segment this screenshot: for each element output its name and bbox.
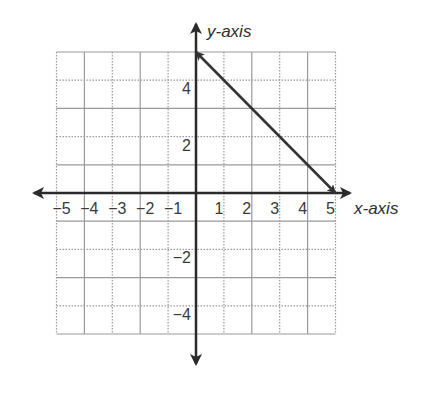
y-tick-label: −4 [173, 306, 191, 323]
x-axis-label: x-axis [353, 199, 399, 218]
x-tick-label: −3 [108, 200, 126, 217]
x-tick-label: 1 [214, 200, 223, 217]
x-tick-label: 5 [326, 200, 335, 217]
x-tick-label: −1 [164, 200, 182, 217]
x-tick-label: −4 [80, 200, 98, 217]
axes [34, 24, 350, 364]
x-tick-label: 2 [242, 200, 251, 217]
y-tick-label: 4 [182, 80, 191, 97]
coordinate-plane: −5−4−3−2−11234542−2−4 y-axis x-axis [0, 0, 428, 395]
series-line [196, 52, 336, 193]
x-tick-label: 4 [298, 200, 307, 217]
tick-labels: −5−4−3−2−11234542−2−4 [52, 80, 335, 323]
data-series [196, 52, 336, 193]
x-tick-label: −2 [136, 200, 154, 217]
y-tick-label: −2 [173, 249, 191, 266]
y-axis-label: y-axis [206, 22, 252, 41]
y-tick-label: 2 [182, 137, 191, 154]
x-tick-label: 3 [270, 200, 279, 217]
x-tick-label: −5 [52, 200, 70, 217]
